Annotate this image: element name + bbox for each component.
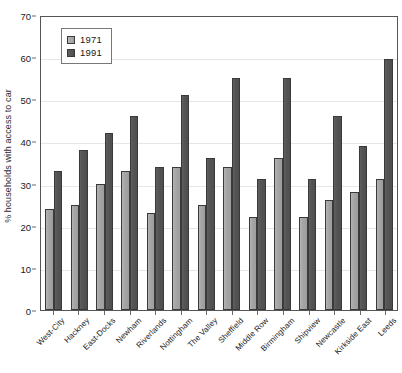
x-axis-tick-mark (130, 311, 131, 315)
bar-group (219, 17, 244, 310)
bar-chart: % households with access to car 01020304… (0, 0, 402, 373)
y-axis-tick-mark (32, 100, 36, 101)
y-axis-ticks: 010203040506070 (16, 10, 36, 316)
bar-group (117, 17, 142, 310)
bar-1971[interactable] (223, 167, 232, 310)
x-axis-tick-mark (360, 311, 361, 315)
y-axis-tick-mark (32, 311, 36, 312)
bar-1991[interactable] (283, 78, 292, 310)
y-axis-tick-label: 40 (20, 137, 31, 148)
y-axis-tick-mark (32, 58, 36, 59)
bar-1971[interactable] (147, 213, 156, 310)
bar-1991[interactable] (105, 133, 114, 310)
legend-swatch-icon-1991 (67, 49, 75, 57)
bar-group (371, 17, 396, 310)
y-axis-tick-mark (32, 226, 36, 227)
bar-group (244, 17, 269, 310)
y-axis-tick-label: 60 (20, 53, 31, 64)
legend-item-1991[interactable]: 1991 (67, 46, 102, 59)
bar-1971[interactable] (249, 217, 258, 310)
x-axis-tick-label: Leeds (376, 316, 398, 338)
bar-1991[interactable] (206, 158, 215, 310)
bar-group (270, 17, 295, 310)
y-axis-tick-label: 50 (20, 95, 31, 106)
x-axis-tick-label: West-City (35, 316, 66, 347)
bar-1991[interactable] (54, 171, 63, 310)
bar-1991[interactable] (181, 95, 190, 310)
x-axis-tick-mark (155, 311, 156, 315)
y-axis-title: % households with access to car (0, 0, 16, 312)
y-axis-title-text: % households with access to car (3, 89, 13, 223)
bar-1991[interactable] (79, 150, 88, 310)
bar-1971[interactable] (71, 205, 80, 310)
bar-group (168, 17, 193, 310)
x-axis-tick-mark (283, 311, 284, 315)
bar-1971[interactable] (274, 158, 283, 310)
bar-1991[interactable] (155, 167, 164, 310)
bar-1971[interactable] (172, 167, 181, 310)
bar-1991[interactable] (130, 116, 139, 310)
legend-label-1971: 1971 (80, 34, 102, 45)
bar-group (321, 17, 346, 310)
bar-1971[interactable] (299, 217, 308, 310)
y-axis-tick-label: 20 (20, 221, 31, 232)
x-axis-tick-mark (309, 311, 310, 315)
y-axis-tick-label: 70 (20, 11, 31, 22)
x-axis-labels: West-CityHackneyEast-DocksNewhamRiverlan… (40, 316, 402, 373)
bar-1991[interactable] (232, 78, 241, 310)
x-axis-tick-mark (181, 311, 182, 315)
y-axis-tick-mark (32, 16, 36, 17)
bar-1971[interactable] (45, 209, 54, 310)
bar-1991[interactable] (333, 116, 342, 310)
y-axis-tick-label: 10 (20, 263, 31, 274)
bar-1991[interactable] (308, 179, 317, 310)
legend-item-1971[interactable]: 1971 (67, 33, 102, 46)
legend-swatch-icon-1971 (67, 36, 75, 44)
y-axis-tick-label: 30 (20, 179, 31, 190)
bar-1971[interactable] (198, 205, 207, 310)
bar-group (295, 17, 320, 310)
y-axis-tick-mark (32, 184, 36, 185)
bar-group (194, 17, 219, 310)
legend-label-1991: 1991 (80, 47, 102, 58)
bar-1991[interactable] (384, 59, 393, 310)
bar-group (346, 17, 371, 310)
bar-1971[interactable] (325, 200, 334, 310)
x-axis-tick-mark (334, 311, 335, 315)
bar-group (143, 17, 168, 310)
x-axis-tick-mark (385, 311, 386, 315)
y-axis-tick-mark (32, 142, 36, 143)
x-axis-tick-mark (78, 311, 79, 315)
x-axis-tick-mark (257, 311, 258, 315)
x-axis-tick-mark (53, 311, 54, 315)
bar-1971[interactable] (121, 171, 130, 310)
bar-1971[interactable] (376, 179, 385, 310)
bar-1991[interactable] (359, 146, 368, 310)
bar-1971[interactable] (96, 184, 105, 310)
x-axis-tick-mark (104, 311, 105, 315)
y-axis-tick-label: 0 (26, 306, 31, 317)
x-axis-tick-mark (232, 311, 233, 315)
bar-1971[interactable] (350, 192, 359, 310)
x-axis-tick-mark (206, 311, 207, 315)
y-axis-tick-mark (32, 268, 36, 269)
chart-legend: 1971 1991 (61, 28, 112, 64)
bar-1991[interactable] (257, 179, 266, 310)
